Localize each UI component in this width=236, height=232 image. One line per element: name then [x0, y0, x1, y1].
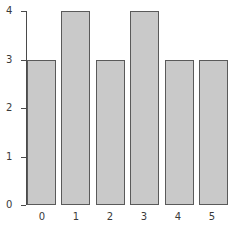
bars-row — [27, 11, 228, 205]
x-tick-label-5: 5 — [197, 212, 227, 222]
bar-chart-figure: 4 3 2 1 0 0 1 2 3 4 5 — [0, 0, 236, 232]
y-tick-mark-4 — [21, 11, 26, 12]
bar-category-5 — [199, 60, 228, 206]
x-tick-label-0: 0 — [27, 212, 57, 222]
y-tick-mark-0 — [21, 205, 26, 206]
y-tick-mark-1 — [21, 157, 26, 158]
y-tick-mark-3 — [21, 60, 26, 61]
bar-category-3 — [130, 11, 159, 205]
x-tick-label-3: 3 — [129, 212, 159, 222]
y-tick-mark-2 — [21, 108, 26, 109]
x-tick-label-1: 1 — [61, 212, 91, 222]
x-tick-label-4: 4 — [163, 212, 193, 222]
plot-area — [27, 11, 228, 205]
bar-category-0 — [27, 60, 56, 206]
x-tick-label-2: 2 — [95, 212, 125, 222]
bar-category-2 — [96, 60, 125, 206]
bar-category-4 — [165, 60, 194, 206]
bar-category-1 — [61, 11, 90, 205]
